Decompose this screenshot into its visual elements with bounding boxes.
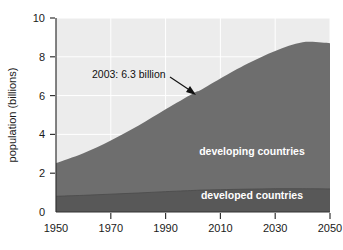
series-label-developed: developed countries [201,189,303,201]
svg-text:1970: 1970 [99,222,123,234]
svg-text:1990: 1990 [153,222,177,234]
chart-figure: 0246810 195019701990201020302050 populat… [0,0,343,250]
svg-text:8: 8 [39,51,45,63]
svg-text:0: 0 [39,206,45,218]
svg-text:2010: 2010 [208,222,232,234]
svg-text:2050: 2050 [318,222,342,234]
svg-text:6: 6 [39,90,45,102]
svg-text:1950: 1950 [44,222,68,234]
svg-text:4: 4 [39,128,45,140]
svg-text:10: 10 [33,12,45,24]
annotation-label: 2003: 6.3 billion [92,68,166,80]
svg-text:2: 2 [39,167,45,179]
y-axis-title: population (billions) [6,68,18,163]
series-label-developing: developing countries [199,145,305,157]
svg-text:2030: 2030 [263,222,287,234]
population-area-chart: 0246810 195019701990201020302050 populat… [0,0,343,250]
